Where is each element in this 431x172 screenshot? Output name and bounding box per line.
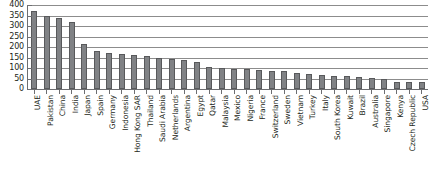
- bar: [331, 76, 337, 89]
- y-tick-label: 250: [9, 33, 24, 41]
- x-label-slot: Hong Kong SAR: [128, 95, 141, 172]
- bar: [106, 53, 112, 89]
- bar: [319, 75, 325, 89]
- x-tick-mark: [284, 90, 285, 94]
- bar: [94, 51, 100, 89]
- y-tick-mark: [28, 37, 32, 38]
- bar-slot: [41, 5, 54, 89]
- x-tick-slot: [28, 90, 41, 94]
- x-tick-mark: [34, 90, 35, 94]
- bar-slot: [191, 5, 204, 89]
- x-tick-slot: [103, 90, 116, 94]
- x-label-slot: Saudi Arabia: [153, 95, 166, 172]
- bar: [394, 82, 400, 89]
- x-tick-mark: [109, 90, 110, 94]
- x-label-slot: Brazil: [353, 95, 366, 172]
- x-tick-slot: [141, 90, 154, 94]
- x-axis-category-labels: UAEPakistanChinaIndiaJapanSpainGermanyIn…: [28, 95, 428, 172]
- x-tick-mark: [171, 90, 172, 94]
- x-label-slot: Turkey: [303, 95, 316, 172]
- y-tick-mark: [28, 68, 32, 69]
- x-label-slot: Japan: [78, 95, 91, 172]
- x-label-slot: Qatar: [203, 95, 216, 172]
- bar: [369, 78, 375, 89]
- x-label-slot: Germany: [103, 95, 116, 172]
- x-tick-mark: [321, 90, 322, 94]
- x-tick-slot: [328, 90, 341, 94]
- x-tick-slot: [216, 90, 229, 94]
- bar: [56, 18, 62, 89]
- x-label-slot: Mexico: [228, 95, 241, 172]
- x-tick-mark: [334, 90, 335, 94]
- bar-slot: [241, 5, 254, 89]
- bar-slot: [153, 5, 166, 89]
- x-tick-slot: [253, 90, 266, 94]
- y-tick-mark: [28, 47, 32, 48]
- bar: [344, 76, 350, 89]
- x-label-slot: Nigeria: [241, 95, 254, 172]
- x-label-slot: Sweden: [278, 95, 291, 172]
- x-label-slot: Indonesia: [116, 95, 129, 172]
- x-tick-mark: [234, 90, 235, 94]
- x-tick-slot: [303, 90, 316, 94]
- bar-slot: [178, 5, 191, 89]
- x-tick-slot: [353, 90, 366, 94]
- bar: [419, 82, 425, 89]
- y-tick-label: 0: [19, 85, 24, 93]
- bar-slot: [266, 5, 279, 89]
- y-tick-mark: [28, 5, 32, 6]
- x-tick-mark: [184, 90, 185, 94]
- x-tick-mark: [396, 90, 397, 94]
- bar: [119, 54, 125, 89]
- y-tick-mark: [28, 89, 32, 90]
- x-tick-mark: [371, 90, 372, 94]
- x-tick-slot: [191, 90, 204, 94]
- bar: [156, 58, 162, 89]
- y-tick-label: 50: [14, 75, 24, 83]
- bar-slot: [328, 5, 341, 89]
- x-tick-label: USA: [422, 95, 430, 110]
- bar: [31, 11, 37, 89]
- x-label-slot: Egypt: [191, 95, 204, 172]
- x-tick-slot: [153, 90, 166, 94]
- x-tick-mark: [71, 90, 72, 94]
- x-label-slot: Switzerland: [266, 95, 279, 172]
- x-tick-slot: [128, 90, 141, 94]
- x-tick-mark: [209, 90, 210, 94]
- x-tick-mark: [46, 90, 47, 94]
- x-label-slot: France: [253, 95, 266, 172]
- x-tick-mark: [196, 90, 197, 94]
- bar: [356, 77, 362, 89]
- bar-slot: [203, 5, 216, 89]
- x-label-slot: Czech Republic: [403, 95, 416, 172]
- bar: [306, 74, 312, 89]
- bar: [206, 67, 212, 89]
- x-tick-mark: [259, 90, 260, 94]
- bar: [181, 60, 187, 89]
- bar-slot: [416, 5, 429, 89]
- x-label-slot: Kuwait: [341, 95, 354, 172]
- x-tick-slot: [166, 90, 179, 94]
- x-tick-slot: [366, 90, 379, 94]
- x-label-slot: Vietnam: [291, 95, 304, 172]
- bar-slot: [291, 5, 304, 89]
- bar-slot: [253, 5, 266, 89]
- y-tick-mark: [28, 79, 32, 80]
- bar-slot: [378, 5, 391, 89]
- bar: [281, 71, 287, 89]
- x-label-slot: Australia: [366, 95, 379, 172]
- x-label-slot: China: [53, 95, 66, 172]
- bar-slot: [128, 5, 141, 89]
- x-label-slot: Netherlands: [166, 95, 179, 172]
- bar: [169, 59, 175, 89]
- bar: [131, 55, 137, 89]
- x-label-slot: Malaysia: [216, 95, 229, 172]
- bar: [81, 44, 87, 89]
- bar: [69, 22, 75, 89]
- bar-slot: [103, 5, 116, 89]
- bar-slot: [366, 5, 379, 89]
- bar-slot: [341, 5, 354, 89]
- bar-slot: [228, 5, 241, 89]
- y-tick-label: 400: [9, 1, 24, 9]
- x-label-slot: Kenya: [391, 95, 404, 172]
